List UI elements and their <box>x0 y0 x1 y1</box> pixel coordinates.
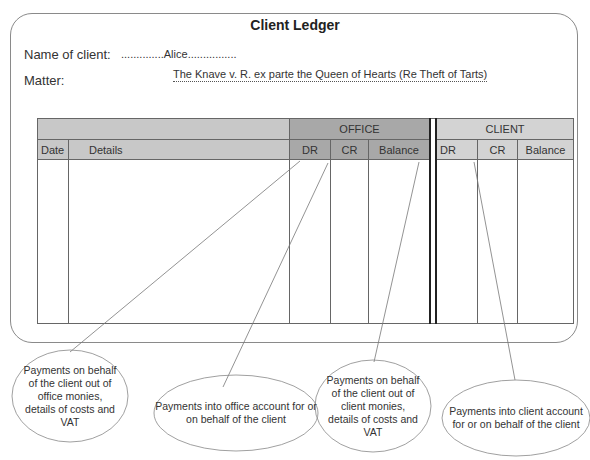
col-client-balance: Balance <box>518 140 574 160</box>
col-client-cr: CR <box>478 140 518 160</box>
client-group-header: CLIENT <box>436 119 574 140</box>
cell-office-cr <box>331 160 369 324</box>
cell-office-dr <box>290 160 331 324</box>
matter-label: Matter: <box>24 73 64 88</box>
col-details: Details <box>69 140 290 160</box>
matter-value: The Knave v. R. ex parte the Queen of He… <box>173 68 487 82</box>
cell-office-balance <box>369 160 431 324</box>
col-date: Date <box>38 140 69 160</box>
callout-client-cr: Payments into client account for or on b… <box>442 397 590 439</box>
cell-date <box>38 160 69 324</box>
col-office-cr: CR <box>331 140 369 160</box>
cell-client-dr <box>436 160 478 324</box>
blank-group-header <box>38 119 290 140</box>
col-office-dr: DR <box>290 140 331 160</box>
ledger-table: OFFICE CLIENT Date Details DR CR Balance… <box>37 118 574 324</box>
client-name-value: ..............Alice................ <box>121 48 237 60</box>
office-group-header: OFFICE <box>290 119 431 140</box>
page-title: Client Ledger <box>0 17 590 33</box>
callout-office-dr: Payments on behalf of the client out of … <box>22 360 118 432</box>
client-name-label: Name of client: <box>24 47 111 62</box>
callout-office-cr: Payments into office account for or on b… <box>154 392 318 434</box>
callout-client-dr: Payments on behalf of the client out of … <box>325 370 421 442</box>
cell-client-cr <box>478 160 518 324</box>
col-office-balance: Balance <box>369 140 431 160</box>
cell-details <box>69 160 290 324</box>
col-client-dr: DR <box>436 140 478 160</box>
cell-client-balance <box>518 160 574 324</box>
